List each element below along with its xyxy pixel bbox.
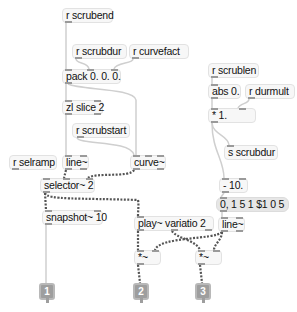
outlet-port[interactable] xyxy=(65,21,72,23)
outlet-port[interactable] xyxy=(220,210,227,212)
inlet-port[interactable] xyxy=(152,250,159,252)
object-label: selector~ 2 xyxy=(44,179,93,191)
inlet-port[interactable] xyxy=(137,216,144,218)
object-label: r scrublen xyxy=(212,64,256,76)
line-signal-right[interactable]: line~ xyxy=(218,217,245,232)
inlet-port[interactable] xyxy=(137,250,144,252)
object-label: snapshot~ 10 xyxy=(46,211,107,223)
inlet-port[interactable] xyxy=(86,178,93,180)
inlet-port[interactable] xyxy=(236,217,243,219)
outlet-number: 1 xyxy=(41,285,53,298)
object-label: play~ variatio 2 xyxy=(138,217,206,229)
object-label: s scrubdur xyxy=(228,146,275,158)
outlet-port[interactable] xyxy=(75,57,82,59)
object-label: r scrubdur xyxy=(76,45,121,57)
selector-signal[interactable]: selector~ 2 xyxy=(40,178,95,193)
receive-durmult[interactable]: r durmult xyxy=(245,84,295,99)
inlet-port[interactable] xyxy=(111,69,118,71)
inlet-port[interactable] xyxy=(94,210,101,212)
pack-object[interactable]: pack 0. 0. 0. xyxy=(62,69,121,84)
inlet-port[interactable] xyxy=(239,178,246,180)
object-label: line~ xyxy=(66,156,87,168)
outlet-port[interactable] xyxy=(133,168,140,170)
outlet-port[interactable] xyxy=(137,229,144,231)
inlet-port[interactable] xyxy=(87,69,94,71)
snapshot-signal[interactable]: snapshot~ 10 xyxy=(42,210,103,225)
outlet-port[interactable] xyxy=(157,168,164,170)
outlet-number: 2 xyxy=(135,285,147,298)
outlet-port[interactable] xyxy=(198,263,205,265)
receive-scrubdur[interactable]: r scrubdur xyxy=(72,44,127,59)
abs-object[interactable]: abs 0. xyxy=(208,84,241,99)
outlet-port[interactable] xyxy=(43,191,50,193)
outlet-port[interactable] xyxy=(12,168,19,170)
inlet-port[interactable] xyxy=(80,155,87,157)
outlet-port[interactable] xyxy=(132,57,139,59)
object-label: r scrubstart xyxy=(76,124,126,136)
outlet-port[interactable] xyxy=(171,229,178,231)
inlet-port[interactable] xyxy=(65,155,72,157)
inlet-port[interactable] xyxy=(213,250,220,252)
patcher-canvas[interactable]: r scrubend r scrubdur r curvefact pack 0… xyxy=(0,0,297,312)
outlet-stem xyxy=(46,298,49,303)
receive-curvefact[interactable]: r curvefact xyxy=(129,44,189,59)
outlet-port[interactable] xyxy=(211,121,218,123)
message-text: 0, 1 5 1 $1 0 5 xyxy=(220,198,284,210)
outlet-port[interactable] xyxy=(65,168,72,170)
line-signal-left[interactable]: line~ xyxy=(62,155,89,170)
outlet-port[interactable] xyxy=(65,113,72,115)
outlet-port[interactable] xyxy=(65,82,72,84)
object-label: zl slice 2 xyxy=(66,101,104,113)
inlet-port[interactable] xyxy=(221,217,228,219)
receive-scrubend[interactable]: r scrubend xyxy=(62,8,113,23)
object-label: r curvefact xyxy=(133,45,180,57)
inlet-port[interactable] xyxy=(94,100,101,102)
outlet-1[interactable]: 1 xyxy=(39,283,55,300)
inlet-port[interactable] xyxy=(211,108,218,110)
inlet-port[interactable] xyxy=(220,197,227,199)
send-scrubdur[interactable]: s scrubdur xyxy=(224,145,278,160)
inlet-port[interactable] xyxy=(157,155,164,157)
message-box-ramp[interactable]: 0, 1 5 1 $1 0 5 xyxy=(216,197,289,212)
outlet-3[interactable]: 3 xyxy=(195,283,211,300)
outlet-port[interactable] xyxy=(80,168,87,170)
multiply-signal-left[interactable]: *~ xyxy=(134,250,161,265)
outlet-port[interactable] xyxy=(211,76,218,78)
outlet-port[interactable] xyxy=(94,113,101,115)
object-label: abs 0. xyxy=(212,85,239,97)
inlet-port[interactable] xyxy=(45,210,52,212)
inlet-port[interactable] xyxy=(133,155,140,157)
inlet-port[interactable] xyxy=(63,178,70,180)
curve-signal[interactable]: curve~ xyxy=(130,155,166,170)
object-label: line~ xyxy=(222,218,243,230)
receive-selramp[interactable]: r selramp xyxy=(9,155,57,170)
receive-scrublen[interactable]: r scrublen xyxy=(208,63,259,78)
multiply-signal-right[interactable]: *~ xyxy=(195,250,222,265)
inlet-port[interactable] xyxy=(65,100,72,102)
outlet-port[interactable] xyxy=(137,263,144,265)
outlet-port[interactable] xyxy=(248,97,255,99)
outlet-port[interactable] xyxy=(77,136,84,138)
inlet-port[interactable] xyxy=(211,84,218,86)
inlet-port[interactable] xyxy=(239,108,246,110)
subtract-object[interactable]: - 10. xyxy=(219,178,248,193)
object-label: curve~ xyxy=(134,156,165,168)
zl-slice-object[interactable]: zl slice 2 xyxy=(62,100,103,115)
inlet-port[interactable] xyxy=(43,178,50,180)
outlet-port[interactable] xyxy=(236,230,243,232)
outlet-port[interactable] xyxy=(222,191,229,193)
outlet-port[interactable] xyxy=(221,230,228,232)
outlet-2[interactable]: 2 xyxy=(133,283,149,300)
receive-scrubstart[interactable]: r scrubstart xyxy=(72,123,130,138)
inlet-port[interactable] xyxy=(222,178,229,180)
outlet-port[interactable] xyxy=(205,229,212,231)
inlet-port[interactable] xyxy=(227,145,234,147)
play-signal[interactable]: play~ variatio 2 xyxy=(134,216,214,231)
outlet-port[interactable] xyxy=(45,223,52,225)
outlet-port[interactable] xyxy=(211,97,218,99)
object-label: r selramp xyxy=(13,156,55,168)
multiply-object[interactable]: * 1. xyxy=(208,108,256,123)
inlet-port[interactable] xyxy=(65,69,72,71)
inlet-port[interactable] xyxy=(198,250,205,252)
inlet-port[interactable] xyxy=(145,155,152,157)
